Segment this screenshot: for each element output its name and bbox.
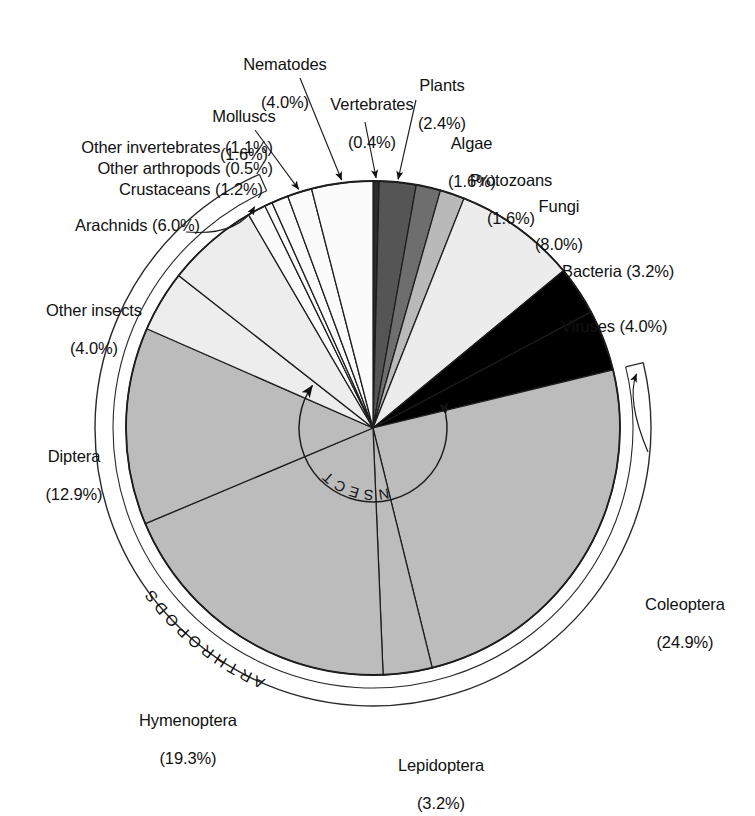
label-plants-name: Plants [419,76,464,94]
label-hymenoptera: Hymenoptera (19.3%) [97,692,261,787]
label-other-arthropods: Other arthropods (0.5%) [15,159,273,178]
label-fungi-name: Fungi [539,197,580,215]
label-diptera-pct: (12.9%) [45,485,102,503]
label-lepidoptera-name: Lepidoptera [398,756,484,774]
label-other-insects-pct: (4.0%) [70,339,118,357]
label-lepidoptera-pct: (3.2%) [417,794,465,812]
label-other-insects: Other insects (4.0%) [10,282,160,377]
label-molluscs-name: Molluscs [212,107,275,125]
label-coleoptera: Coleoptera (24.9%) [606,576,746,671]
label-arachnids: Arachnids (6.0%) [10,216,200,235]
label-coleoptera-name: Coleoptera [645,595,725,613]
label-diptera-name: Diptera [48,447,101,465]
label-hymenoptera-name: Hymenoptera [139,711,237,729]
label-viruses: Viruses (4.0%) [561,317,751,336]
label-coleoptera-pct: (24.9%) [656,633,713,651]
label-other-insects-name: Other insects [46,301,142,319]
label-algae-name: Algae [451,134,493,152]
label-fungi-pct: (8.0%) [535,235,583,253]
label-hymenoptera-pct: (19.3%) [159,749,216,767]
label-other-invertebrates: Other invertebrates (1.1%) [15,138,273,157]
label-fungi: Fungi (8.0%) [504,178,596,273]
label-diptera: Diptera (12.9%) [6,428,124,523]
label-bacteria: Bacteria (3.2%) [562,262,752,281]
label-lepidoptera: Lepidoptera (3.2%) [357,737,507,816]
label-nematodes-name: Nematodes [243,55,326,73]
label-crustaceans: Crustaceans (1.2%) [15,180,263,199]
leader-arthropods-ring-start [633,374,648,452]
